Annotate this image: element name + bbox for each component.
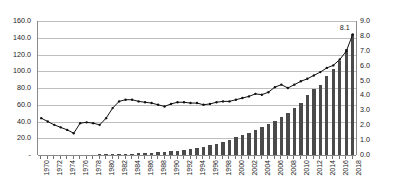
x-axis-tick — [326, 156, 327, 159]
x-axis-tick — [164, 156, 165, 159]
data-point — [66, 129, 68, 131]
x-axis-tick — [112, 156, 113, 159]
right-axis-tick-label: 2.0 — [360, 121, 370, 128]
data-point — [261, 94, 263, 96]
data-point — [124, 99, 126, 101]
x-axis-tick — [300, 156, 301, 159]
x-axis-tick — [306, 156, 307, 159]
x-axis-tick — [202, 156, 203, 159]
x-axis-tick-label: 2010 — [303, 160, 310, 176]
data-point — [274, 86, 276, 88]
x-axis-tick — [352, 156, 353, 159]
data-point — [189, 102, 191, 104]
data-point — [300, 80, 302, 82]
data-point — [118, 100, 120, 102]
x-axis-tick-label: 2004 — [264, 160, 271, 176]
left-axis-tick-label: 80.0 — [17, 84, 31, 91]
line-series-path — [41, 34, 353, 133]
x-axis-tick — [313, 156, 314, 159]
data-point — [313, 74, 315, 76]
data-point — [248, 95, 250, 97]
x-axis-tick-label: 2002 — [251, 160, 258, 176]
data-point — [170, 103, 172, 105]
data-point — [163, 105, 165, 107]
data-point — [105, 117, 107, 119]
x-axis-tick — [235, 156, 236, 159]
data-point — [254, 93, 256, 95]
x-axis-tick — [261, 156, 262, 159]
x-axis-tick-label: 2000 — [238, 160, 245, 176]
data-point — [40, 117, 42, 119]
data-point — [235, 99, 237, 101]
x-axis-tick — [183, 156, 184, 159]
x-axis-tick-label: 2014 — [329, 160, 336, 176]
right-axis-tick-label: 5.0 — [360, 77, 370, 84]
x-axis-tick — [280, 156, 281, 159]
left-axis-tick-label: 140.0 — [13, 34, 31, 41]
data-point — [144, 101, 146, 103]
chart-container: -20.040.060.080.0100.0120.0140.0160.0 0.… — [0, 0, 395, 194]
x-axis-tick-label: 1988 — [160, 160, 167, 176]
x-axis-tick — [86, 156, 87, 159]
data-point — [293, 83, 295, 85]
right-axis-tick-label: 0.0 — [360, 151, 370, 158]
x-axis-tick — [196, 156, 197, 159]
x-axis-tick — [79, 156, 80, 159]
data-point — [352, 33, 354, 35]
x-axis-tick — [138, 156, 139, 159]
data-point — [183, 101, 185, 103]
data-point — [319, 71, 321, 73]
data-point — [157, 104, 159, 106]
x-axis-tick-label: 1986 — [147, 160, 154, 176]
data-point — [60, 126, 62, 128]
right-axis-tick-label: 6.0 — [360, 62, 370, 69]
left-axis-tick-label: - — [29, 151, 31, 158]
x-axis-tick-label: 2016 — [342, 160, 349, 176]
right-axis-tick-label: 7.0 — [360, 47, 370, 54]
right-axis-tick-label: 1.0 — [360, 136, 370, 143]
x-axis-tick — [99, 156, 100, 159]
x-axis-tick-label: 1996 — [212, 160, 219, 176]
data-point — [196, 102, 198, 104]
x-axis-tick — [53, 156, 54, 159]
line-series-markers — [40, 33, 354, 134]
x-axis-tick-label: 1982 — [121, 160, 128, 176]
data-point — [72, 132, 74, 134]
data-point — [176, 101, 178, 103]
x-axis-tick — [319, 156, 320, 159]
x-axis-tick — [293, 156, 294, 159]
data-point — [215, 101, 217, 103]
x-axis-tick-label: 1980 — [108, 160, 115, 176]
x-axis-tick — [215, 156, 216, 159]
x-axis-tick — [190, 156, 191, 159]
x-axis-tick — [60, 156, 61, 159]
data-point — [111, 107, 113, 109]
data-point — [267, 91, 269, 93]
right-axis-tick-label: 3.0 — [360, 106, 370, 113]
x-axis-tick — [339, 156, 340, 159]
x-axis-tick — [131, 156, 132, 159]
x-axis-tick — [241, 156, 242, 159]
data-point — [326, 67, 328, 69]
x-axis-tick — [222, 156, 223, 159]
data-point — [339, 58, 341, 60]
left-axis-tick-label: 160.0 — [13, 17, 31, 24]
left-axis-tick-label: 20.0 — [17, 134, 31, 141]
data-point — [131, 99, 133, 101]
x-axis-tick — [66, 156, 67, 159]
x-axis-tick-label: 1994 — [199, 160, 206, 176]
data-point — [98, 124, 100, 126]
data-point — [202, 104, 204, 106]
x-axis-tick-label: 1998 — [225, 160, 232, 176]
x-axis-tick — [73, 156, 74, 159]
last-value-label: 8.1 — [340, 23, 350, 32]
x-axis-tick-label: 2012 — [316, 160, 323, 176]
left-axis-tick-label: 40.0 — [17, 118, 31, 125]
x-axis-tick-label: 2008 — [290, 160, 297, 176]
x-axis-tick-label: 2018 — [355, 160, 362, 176]
data-point — [241, 97, 243, 99]
data-point — [137, 100, 139, 102]
data-point — [306, 78, 308, 80]
x-axis-tick-label: 1970 — [43, 160, 50, 176]
x-axis-tick-label: 1992 — [186, 160, 193, 176]
